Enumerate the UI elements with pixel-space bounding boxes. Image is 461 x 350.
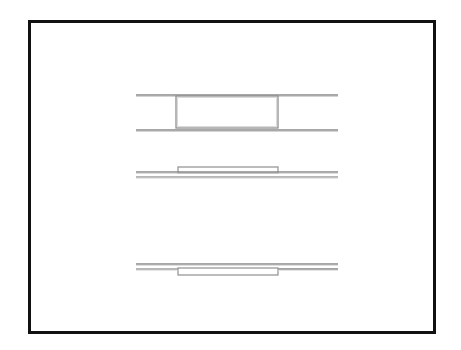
drawing-canvas: two widely spaced horizontal rules with … — [0, 0, 461, 350]
outer-border-frame — [28, 20, 436, 334]
